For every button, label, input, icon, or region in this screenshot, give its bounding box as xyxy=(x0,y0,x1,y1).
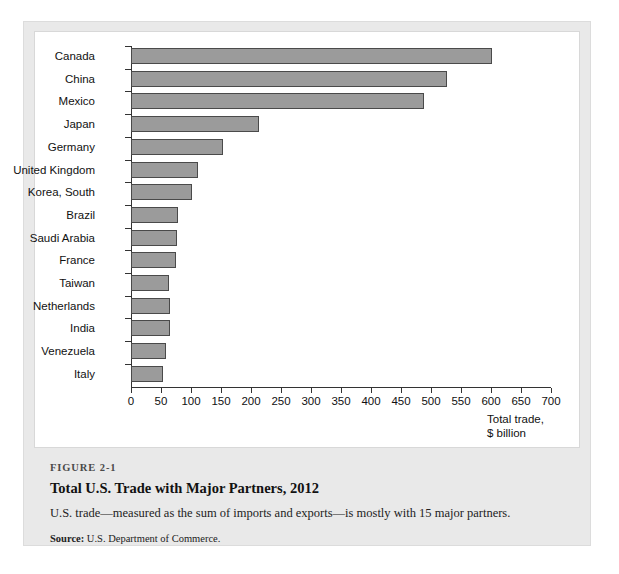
x-axis-title-line-1: Total trade, xyxy=(487,412,544,426)
bar xyxy=(131,139,223,155)
bar-row: Brazil xyxy=(35,205,579,226)
chart-plot-panel: CanadaChinaMexicoJapanGermanyUnited King… xyxy=(34,31,580,448)
figure-description: U.S. trade—measured as the sum of import… xyxy=(50,506,570,521)
bar xyxy=(131,230,177,246)
bar-category-label: Taiwan xyxy=(0,273,95,294)
bar-category-label: Germany xyxy=(0,137,95,158)
bar-row: Germany xyxy=(35,137,579,158)
x-axis-tick xyxy=(131,388,132,393)
bar-row: Netherlands xyxy=(35,296,579,317)
bar xyxy=(131,320,170,336)
bar-chart: CanadaChinaMexicoJapanGermanyUnited King… xyxy=(35,32,579,447)
bar xyxy=(131,366,163,382)
x-axis-tick xyxy=(551,388,552,393)
x-axis-tick xyxy=(251,388,252,393)
y-axis-tick xyxy=(125,160,131,161)
bar-category-label: China xyxy=(0,69,95,90)
x-axis-tick-label: 700 xyxy=(531,395,571,407)
y-axis-tick xyxy=(125,228,131,229)
bar-category-label: India xyxy=(0,318,95,339)
bar xyxy=(131,184,192,200)
bar-row: Mexico xyxy=(35,91,579,112)
figure-source: Source: U.S. Department of Commerce. xyxy=(50,533,570,544)
bar xyxy=(131,275,169,291)
bar-row: Italy xyxy=(35,364,579,385)
bar-category-label: Canada xyxy=(0,46,95,67)
y-axis-tick xyxy=(125,341,131,342)
bar xyxy=(131,162,198,178)
x-axis-tick xyxy=(491,388,492,393)
bar-category-label: Netherlands xyxy=(0,296,95,317)
x-axis-title: Total trade, $ billion xyxy=(487,412,544,440)
bar-category-label: Mexico xyxy=(0,91,95,112)
x-axis-tick xyxy=(221,388,222,393)
bar-category-label: Italy xyxy=(0,364,95,385)
bar-category-label: Venezuela xyxy=(0,341,95,362)
bar-row: India xyxy=(35,318,579,339)
bar xyxy=(131,298,170,314)
bar-row: Canada xyxy=(35,46,579,67)
x-axis-tick xyxy=(341,388,342,393)
y-axis-tick xyxy=(125,114,131,115)
x-axis-tick xyxy=(161,388,162,393)
y-axis-tick xyxy=(125,273,131,274)
figure-caption: FIGURE 2-1 Total U.S. Trade with Major P… xyxy=(50,462,570,544)
y-axis-tick xyxy=(125,182,131,183)
bar-category-label: United Kingdom xyxy=(0,160,95,181)
bar xyxy=(131,343,166,359)
bar-category-label: Japan xyxy=(0,114,95,135)
y-axis-tick xyxy=(125,46,131,47)
y-axis-tick xyxy=(125,250,131,251)
bar-category-label: France xyxy=(0,250,95,271)
figure-container: CanadaChinaMexicoJapanGermanyUnited King… xyxy=(24,22,590,545)
x-axis-title-line-2: $ billion xyxy=(487,426,544,440)
x-axis-tick xyxy=(311,388,312,393)
x-axis-tick xyxy=(371,388,372,393)
figure-title: Total U.S. Trade with Major Partners, 20… xyxy=(50,480,570,497)
bar-row: France xyxy=(35,250,579,271)
y-axis-tick xyxy=(125,91,131,92)
x-axis-tick xyxy=(191,388,192,393)
bar-row: Japan xyxy=(35,114,579,135)
x-axis-tick xyxy=(431,388,432,393)
bar-category-label: Korea, South xyxy=(0,182,95,203)
y-axis-tick xyxy=(125,137,131,138)
x-axis-tick xyxy=(521,388,522,393)
bar-row: Venezuela xyxy=(35,341,579,362)
y-axis-tick xyxy=(125,318,131,319)
y-axis-tick xyxy=(125,296,131,297)
figure-source-label: Source: xyxy=(50,533,84,544)
y-axis-tick xyxy=(125,205,131,206)
bar-row: China xyxy=(35,69,579,90)
bar-category-label: Saudi Arabia xyxy=(0,228,95,249)
bar xyxy=(131,207,178,223)
bar-row: Taiwan xyxy=(35,273,579,294)
bar xyxy=(131,116,259,132)
bar-row: Saudi Arabia xyxy=(35,228,579,249)
bar-row: United Kingdom xyxy=(35,160,579,181)
bar-category-label: Brazil xyxy=(0,205,95,226)
figure-number: FIGURE 2-1 xyxy=(50,462,570,473)
y-axis-tick xyxy=(125,364,131,365)
x-axis-tick xyxy=(461,388,462,393)
bar xyxy=(131,93,424,109)
bar xyxy=(131,71,447,87)
bar-row: Korea, South xyxy=(35,182,579,203)
x-axis-tick xyxy=(281,388,282,393)
figure-source-text: U.S. Department of Commerce. xyxy=(87,533,221,544)
x-axis-tick xyxy=(401,388,402,393)
y-axis-tick xyxy=(125,69,131,70)
bar xyxy=(131,252,176,268)
bar xyxy=(131,48,492,64)
